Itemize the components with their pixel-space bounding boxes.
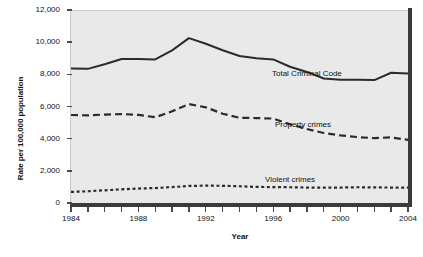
series-lines <box>0 0 423 257</box>
series-line <box>71 104 408 140</box>
crime-rate-line-chart: Rate per 100,000 population 02,0004,0006… <box>0 0 423 257</box>
series-line <box>71 38 408 80</box>
series-line <box>71 186 408 192</box>
x-axis-title: Year <box>70 232 410 241</box>
